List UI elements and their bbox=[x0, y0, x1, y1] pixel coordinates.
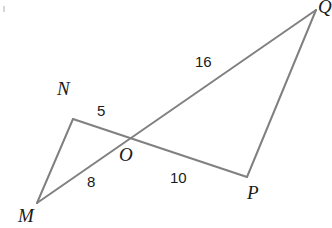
measure-label-op: 10 bbox=[170, 170, 187, 185]
measure-label-mo: 8 bbox=[87, 174, 95, 189]
figure-canvas bbox=[0, 0, 332, 228]
vertex-label-o: O bbox=[119, 145, 133, 164]
geometry-figure: M N O P Q 5 8 10 16 bbox=[0, 0, 332, 228]
measure-label-oq: 16 bbox=[195, 54, 212, 69]
measure-label-no: 5 bbox=[97, 103, 105, 118]
vertex-label-q: Q bbox=[318, 0, 332, 16]
segment-np bbox=[73, 119, 247, 177]
vertex-label-m: M bbox=[18, 206, 34, 225]
scan-artifact-speck bbox=[3, 6, 5, 12]
vertex-label-p: P bbox=[247, 183, 259, 202]
vertex-label-n: N bbox=[57, 79, 70, 98]
